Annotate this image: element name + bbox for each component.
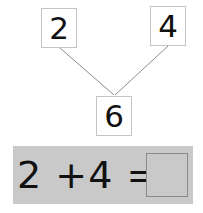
- answer-box[interactable]: [146, 153, 188, 197]
- left-operand: 2: [17, 151, 42, 199]
- plus-sign: +: [55, 151, 88, 199]
- part-a-box: 2: [41, 8, 77, 48]
- whole-box: 6: [96, 96, 132, 136]
- whole-value: 6: [104, 101, 124, 132]
- equation: 2 +4 =: [17, 151, 159, 199]
- part-a-value: 2: [49, 13, 69, 44]
- right-operand: 4: [88, 151, 113, 199]
- part-b-box: 4: [150, 6, 186, 46]
- part-b-value: 4: [158, 11, 178, 42]
